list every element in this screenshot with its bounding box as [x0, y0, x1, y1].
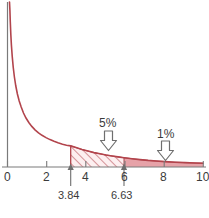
critical-value-label-3-84: 3.84 — [58, 190, 79, 201]
x-tick-label-0: 0 — [4, 171, 11, 183]
critical-value-label-6-63: 6.63 — [111, 190, 132, 201]
chart-canvas — [0, 0, 209, 218]
one-percent-down-arrow-icon — [158, 141, 174, 161]
one-percent-label: 1% — [157, 128, 174, 140]
x-tick-label-2: 2 — [43, 171, 50, 183]
five-percent-label: 5% — [99, 117, 116, 129]
x-tick-label-6: 6 — [121, 171, 128, 183]
x-tick-label-8: 8 — [160, 171, 167, 183]
five-percent-down-arrow-icon — [101, 131, 117, 151]
x-tick-label-4: 4 — [82, 171, 89, 183]
chi-square-distribution-figure: 0 2 4 6 8 10 5% 1% 3.84 6.63 — [0, 0, 209, 218]
x-tick-label-10: 10 — [196, 171, 209, 183]
